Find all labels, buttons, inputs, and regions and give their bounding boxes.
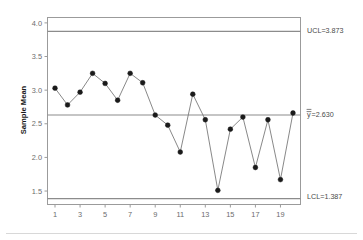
x-tick-label: 7 <box>128 210 132 219</box>
data-point <box>140 80 145 85</box>
data-point <box>215 188 220 193</box>
x-tick-label: 1 <box>53 210 57 219</box>
ucl-label: UCL=3.873 <box>307 26 344 35</box>
x-tick-label: 3 <box>78 210 82 219</box>
y-tick-label: 2.0 <box>32 153 42 162</box>
x-tick-label: 17 <box>251 210 259 219</box>
data-point <box>291 111 296 116</box>
data-point <box>90 71 95 76</box>
plot-frame <box>48 18 301 205</box>
y-axis-title: Sample Mean <box>19 85 28 134</box>
data-point <box>178 150 183 155</box>
data-point <box>240 115 245 120</box>
data-point <box>165 123 170 128</box>
x-tick-label: 15 <box>226 210 234 219</box>
data-point <box>78 90 83 95</box>
y-tick-label: 3.0 <box>32 86 42 95</box>
y-tick-label: 2.5 <box>32 119 42 128</box>
y-tick-label: 1.5 <box>32 187 42 196</box>
x-axis-tick-labels: 135791113151719 <box>53 210 285 219</box>
y-tick-label: 4.0 <box>32 19 42 28</box>
control-chart: 4.03.53.02.52.01.5 135791113151719 Sampl… <box>0 0 363 240</box>
lcl-label: LCL=1.387 <box>307 192 342 201</box>
data-point <box>115 98 120 103</box>
data-point <box>153 113 158 118</box>
data-point <box>253 165 258 170</box>
y-axis-tick-labels: 4.03.53.02.52.01.5 <box>32 19 42 196</box>
x-tick-label: 13 <box>201 210 209 219</box>
x-tick-label: 19 <box>276 210 284 219</box>
data-point <box>65 103 70 108</box>
y-tick-label: 3.5 <box>32 52 42 61</box>
x-tick-label: 9 <box>153 210 157 219</box>
x-tick-label: 11 <box>176 210 184 219</box>
data-point <box>266 117 271 122</box>
x-tick-label: 5 <box>103 210 107 219</box>
chart-canvas: 4.03.53.02.52.01.5 135791113151719 Sampl… <box>0 0 363 240</box>
data-point <box>190 92 195 97</box>
center-line-label-value: =2.630 <box>312 110 334 119</box>
data-point <box>53 86 58 91</box>
bottom-divider <box>6 233 357 234</box>
data-point <box>203 117 208 122</box>
center-line-label-group: y =2.630 <box>307 109 334 119</box>
data-point <box>278 177 283 182</box>
data-point <box>228 127 233 132</box>
data-point <box>128 71 133 76</box>
data-point <box>103 81 108 86</box>
